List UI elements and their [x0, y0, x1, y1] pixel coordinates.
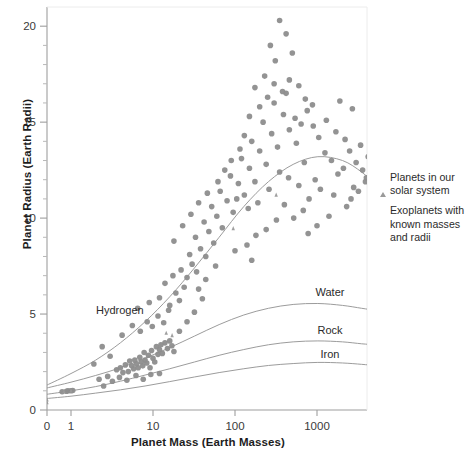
- x-axis-ticks: 01101001000: [44, 410, 330, 432]
- svg-text:0: 0: [44, 420, 50, 432]
- y-axis-label: Planet Radius (Earth Radii): [21, 59, 33, 289]
- legend-item: Exoplanets with known masses and radii: [379, 204, 473, 244]
- svg-text:0: 0: [30, 404, 36, 416]
- curve-label-rock: Rock: [317, 324, 343, 336]
- plot-frame: [47, 7, 367, 410]
- svg-text:5: 5: [30, 308, 36, 320]
- circle-marker-icon: [379, 204, 390, 226]
- curve-label-hydrogen: Hydrogen: [96, 304, 144, 316]
- triangle-marker-icon: [379, 171, 390, 193]
- legend-item: Planets in our solar system: [379, 171, 473, 197]
- mass-radius-chart: Planet Radius (Earth Radii) Planet Mass …: [0, 0, 473, 462]
- svg-text:100: 100: [225, 420, 244, 432]
- legend-label: Planets in our solar system: [390, 171, 473, 197]
- composition-curves: [47, 157, 374, 399]
- x-axis-label: Planet Mass (Earth Masses): [47, 436, 369, 448]
- curve-label-water: Water: [316, 286, 345, 298]
- svg-text:1: 1: [68, 420, 74, 432]
- svg-text:20: 20: [23, 20, 36, 32]
- data-points: [45, 18, 371, 405]
- curve-label-iron: Iron: [321, 348, 340, 360]
- legend: Planets in our solar system Exoplanets w…: [379, 171, 473, 251]
- legend-label: Exoplanets with known masses and radii: [390, 204, 473, 244]
- svg-text:1000: 1000: [304, 420, 330, 432]
- svg-text:10: 10: [147, 420, 160, 432]
